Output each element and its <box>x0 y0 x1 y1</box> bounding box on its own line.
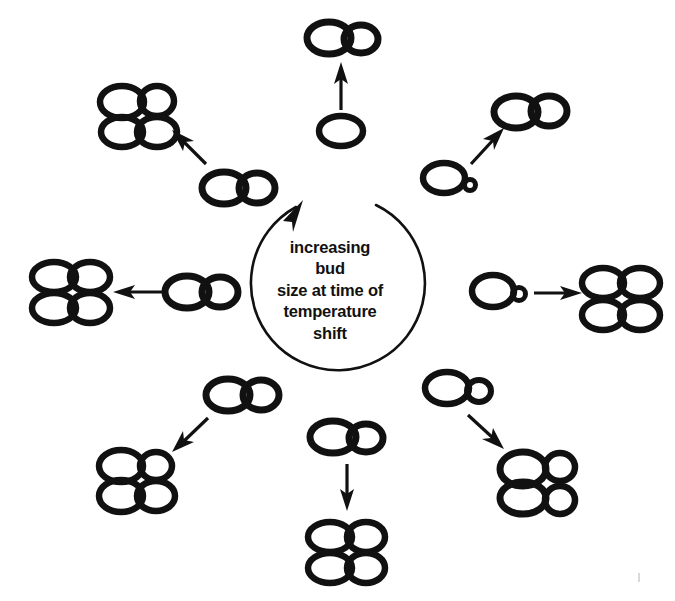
caption-line-2: bud <box>257 258 403 279</box>
stage-bottom-arrow <box>340 464 354 511</box>
stage-right-result-cluster <box>582 268 660 330</box>
stage-lower-right-source-cell <box>425 372 491 404</box>
stage-upper-left-source-cell <box>202 172 275 204</box>
stage-lower-left-arrow <box>172 418 208 452</box>
stage-right-arrow <box>534 286 582 300</box>
stage-bottom-source-cell <box>310 421 383 453</box>
caption-line-5: shift <box>257 323 403 344</box>
stage-upper-right-source-cell <box>423 163 476 193</box>
stage-left-source-cell <box>165 276 238 308</box>
stage-lower-right <box>425 372 575 514</box>
caption-line-3: size at time of <box>257 280 403 301</box>
stage-lower-right-arrow <box>468 415 504 449</box>
stage-left <box>32 262 238 323</box>
stage-top-arrow <box>334 62 348 110</box>
stage-upper-right <box>423 96 567 193</box>
stage-upper-right-arrow <box>471 128 504 164</box>
caption-line-4: temperature <box>257 301 403 322</box>
caption-line-1: increasing <box>257 237 403 258</box>
yeast-budding-cycle-figure: increasing bud size at time of temperatu… <box>0 0 675 601</box>
stage-top-result-cluster <box>307 22 378 54</box>
stage-right-source-cell <box>472 275 526 307</box>
stage-bottom <box>308 421 385 583</box>
stage-upper-left <box>100 86 275 204</box>
cycle-arrow-head <box>283 200 303 232</box>
stage-top-source-cell <box>319 116 363 146</box>
stage-top <box>307 22 378 146</box>
stage-upper-left-result-cluster <box>100 86 177 147</box>
stage-lower-left-result-cluster <box>99 450 175 512</box>
stage-left-arrow <box>113 285 163 299</box>
stage-left-result-cluster <box>32 262 110 323</box>
stage-bottom-result-cluster <box>308 522 385 583</box>
stage-lower-left <box>99 379 279 512</box>
center-caption: increasing bud size at time of temperatu… <box>257 237 403 344</box>
scan-artifact-speck <box>638 573 640 582</box>
stage-upper-right-result-cluster <box>494 96 567 128</box>
stage-lower-right-result-cluster <box>500 452 575 514</box>
stage-right <box>472 268 660 330</box>
stage-lower-left-source-cell <box>206 379 279 411</box>
